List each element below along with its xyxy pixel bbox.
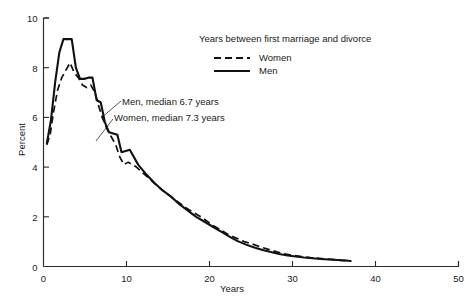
legend-label-men: Men (259, 65, 277, 76)
legend-label-women: Women (259, 52, 292, 63)
y-tick-label: 0 (8, 261, 38, 272)
x-tick-label: 50 (453, 273, 464, 284)
legend: Years between first marriage and divorce… (199, 33, 371, 77)
y-axis-title: Percent (16, 110, 27, 170)
x-axis-title: Years (220, 283, 244, 294)
x-tick-label: 10 (121, 273, 132, 284)
legend-item-women: Women (213, 51, 371, 64)
legend-swatch-solid-icon (213, 66, 251, 76)
y-tick-label: 10 (8, 13, 38, 24)
x-tick-label: 40 (370, 273, 381, 284)
legend-item-men: Men (213, 64, 371, 77)
x-tick-label: 30 (287, 273, 298, 284)
chart-container: 010203040500246810 Years Percent Years b… (0, 0, 471, 303)
y-tick-marks (44, 18, 50, 217)
x-tick-label: 20 (204, 273, 215, 284)
x-tick-label: 0 (41, 273, 46, 284)
annotation-women-median: Women, median 7.3 years (114, 112, 225, 123)
legend-title: Years between first marriage and divorce (199, 33, 371, 44)
series-line-women (47, 63, 351, 261)
y-tick-label: 8 (8, 62, 38, 73)
legend-swatch-dashed-icon (213, 53, 251, 63)
annotation-men-median: Men, median 6.7 years (122, 96, 219, 107)
x-tick-marks (127, 261, 459, 267)
y-tick-label: 2 (8, 211, 38, 222)
